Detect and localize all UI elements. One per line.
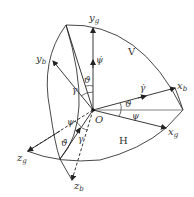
axis-xb <box>93 88 175 110</box>
label-axis-xg: xg <box>168 126 179 139</box>
outer-arc-bottom <box>27 128 166 161</box>
axis-to-intersection <box>60 110 93 159</box>
frame-rotation-diagram: O V H yg yb xb xg zg zb ϑ γ ψ̇ γ̇ ϑ ψ ψ … <box>0 0 194 197</box>
label-axis-yg: yg <box>88 12 100 25</box>
label-psi-right: ψ <box>132 111 140 121</box>
label-theta-upper: ϑ <box>84 75 91 85</box>
label-gamma-upper: γ <box>72 85 78 95</box>
label-axis-yb: yb <box>35 53 47 66</box>
label-psi-dot: ψ̇ <box>96 55 104 65</box>
sphere-outline <box>27 25 183 180</box>
axis-xg <box>93 110 166 128</box>
label-psi-lower: ψ <box>67 117 75 127</box>
origin-point <box>91 108 95 112</box>
label-theta-dot-lower: ϑ̇ <box>61 138 68 148</box>
label-plane-h: H <box>119 135 128 146</box>
rate-arrows <box>77 60 146 133</box>
label-origin: O <box>95 114 103 125</box>
axis-zb <box>72 110 93 180</box>
label-plane-v: V <box>127 46 136 57</box>
label-axis-zg: zg <box>16 152 27 165</box>
label-theta-right: ϑ <box>125 99 132 109</box>
outer-arc-top <box>66 25 183 110</box>
label-gamma-lower: γ <box>78 134 84 144</box>
label-axis-xb: xb <box>177 80 188 93</box>
label-gamma-dot: γ̇ <box>140 83 146 93</box>
lower-arc <box>60 159 72 180</box>
axes <box>28 25 183 180</box>
label-axis-zb: zb <box>73 180 84 193</box>
